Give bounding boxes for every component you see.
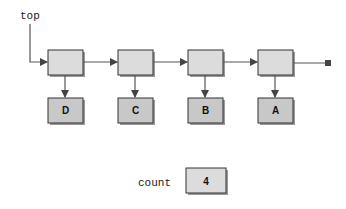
count-label: count (138, 177, 171, 189)
list-node (118, 50, 155, 77)
value-node: D (48, 98, 85, 125)
count-value: 4 (203, 176, 209, 187)
value-label: C (132, 105, 139, 116)
value-node: C (118, 98, 155, 125)
count-box: 4 (186, 168, 228, 195)
linked-list-diagram: top D C B A (0, 0, 346, 209)
null-terminator-icon (325, 60, 331, 66)
top-pointer-arrow (30, 24, 47, 62)
value-label: B (202, 105, 209, 116)
top-pointer-label: top (20, 10, 40, 22)
value-node: B (188, 98, 225, 125)
value-label: A (272, 105, 279, 116)
value-label: D (62, 105, 69, 116)
list-node (48, 50, 85, 77)
list-node (188, 50, 225, 77)
value-node: A (258, 98, 295, 125)
list-node (258, 50, 295, 77)
